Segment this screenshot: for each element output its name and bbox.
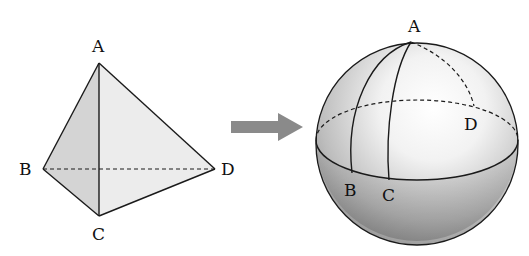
- sphere: A B C D: [316, 16, 518, 245]
- sphere-label-a: A: [407, 16, 421, 36]
- arrow-icon: [231, 113, 303, 141]
- figure: A B C D A B C D: [0, 0, 529, 256]
- tetrahedron: A B C D: [19, 36, 235, 244]
- tetra-label-a: A: [91, 36, 105, 56]
- tetra-label-c: C: [92, 224, 105, 244]
- sphere-label-b: B: [344, 180, 357, 200]
- sphere-label-c: C: [382, 185, 395, 205]
- tetra-label-d: D: [221, 159, 235, 179]
- tetra-label-b: B: [19, 159, 32, 179]
- sphere-label-d: D: [464, 114, 478, 134]
